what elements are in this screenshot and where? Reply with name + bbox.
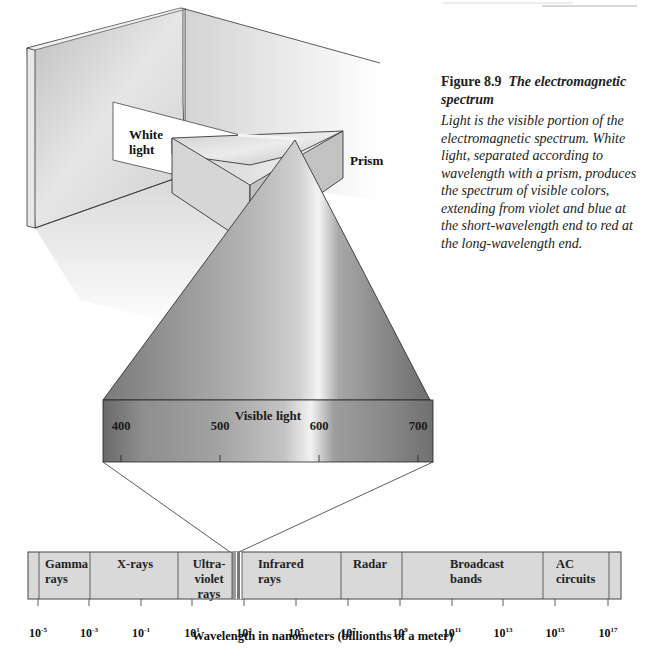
zoom-line-left (103, 462, 230, 552)
band-radar: Radar (353, 557, 387, 572)
visible-tick-700: 700 (409, 419, 428, 434)
figure-number: Figure 8.9 (441, 74, 501, 89)
band-label-line: Radar (353, 557, 387, 572)
visible-tick-500: 500 (211, 419, 230, 434)
band-label-line: violet (190, 572, 228, 587)
figure-caption-body: Light is the visible portion of the elec… (441, 112, 641, 252)
band-label-line: Broadcast (450, 557, 504, 572)
visible-light-title: Visible light (103, 408, 433, 424)
band-label-line: circuits (556, 572, 595, 587)
band-label-line: Gamma (45, 557, 88, 572)
band-label-line: rays (258, 572, 304, 587)
band-label-line: Ultra- (190, 557, 228, 572)
white-light-label-line2: light (129, 142, 163, 157)
white-light-label: White light (129, 127, 163, 157)
band-label-line: Infrared (258, 557, 304, 572)
prism-label: Prism (350, 153, 383, 168)
band-ultraviolet-rays: Ultra- violet rays (190, 557, 228, 602)
band-label-line: AC (556, 557, 595, 572)
wall-edge (27, 48, 35, 228)
axis-ticks (38, 599, 608, 606)
band-label-line: rays (190, 587, 228, 602)
band-infrared-rays: Infrared rays (258, 557, 304, 587)
visible-tick-400: 400 (112, 419, 131, 434)
axis-title: Wavelength in nanometers (billionths of … (0, 629, 645, 644)
band-label-line: bands (450, 572, 504, 587)
band-ac-circuits: AC circuits (556, 557, 595, 587)
band-label-line: rays (45, 572, 88, 587)
band-gamma-rays: Gamma rays (45, 557, 88, 587)
visible-tick-600: 600 (310, 419, 329, 434)
band-broadcast-bands: Broadcast bands (450, 557, 504, 587)
white-light-label-line1: White (129, 127, 163, 142)
zoom-line-right (239, 462, 433, 552)
band-label-line: X-rays (117, 557, 153, 572)
figure-caption: Figure 8.9 The electromagnetic spectrum … (441, 73, 641, 252)
band-x-rays: X-rays (117, 557, 153, 572)
